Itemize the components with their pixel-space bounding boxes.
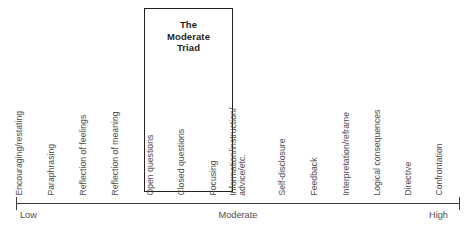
- technique-label-text-line2: advice/etc.: [239, 108, 248, 196]
- technique-label-interpretation-reframe: Interpretation/reframe: [342, 112, 352, 196]
- continuum-axis-tick-high: [459, 197, 460, 210]
- technique-label-reflection-of-feelings: Reflection of feelings: [79, 115, 89, 196]
- technique-label-confrontation: Confrontation: [435, 144, 445, 196]
- moderate-triad-box: The Moderate Triad: [144, 8, 233, 192]
- technique-label-encouraging-restating: Encouraging/restating: [15, 111, 25, 196]
- continuum-axis-tick-low: [16, 197, 17, 210]
- technique-label-logical-consequences: Logical consequences: [373, 110, 383, 196]
- technique-label-self-disclosure: Self-disclosure: [278, 139, 288, 196]
- technique-label-text: Closed questions: [176, 129, 186, 196]
- axis-label-high: High: [429, 210, 448, 220]
- continuum-axis-line: [16, 203, 460, 204]
- technique-label-open-questions: Open questions: [146, 135, 156, 196]
- technique-label-text: Feedback: [309, 158, 319, 196]
- technique-label-text: Reflection of meaning: [110, 112, 120, 196]
- technique-label-closed-questions: Closed questions: [177, 129, 187, 196]
- axis-label-moderate: Moderate: [0, 210, 476, 220]
- technique-label-text: Reflection of feelings: [78, 115, 88, 196]
- technique-label-directive: Directive: [404, 162, 414, 196]
- technique-label-feedback: Feedback: [310, 158, 320, 196]
- technique-label-text: Focusing: [208, 161, 218, 196]
- moderate-triad-title: The Moderate Triad: [145, 19, 232, 54]
- moderate-triad-title-line1: The: [180, 19, 197, 30]
- technique-label-focusing: Focusing: [209, 161, 219, 196]
- technique-label-text: Logical consequences: [372, 110, 382, 196]
- technique-label-reflection-of-meaning: Reflection of meaning: [111, 112, 121, 196]
- technique-label-text: Confrontation: [434, 144, 444, 196]
- technique-label-information-instruction-advice: Information/instruction/ advice/etc.: [229, 108, 248, 196]
- moderate-triad-title-line3: Triad: [177, 42, 200, 53]
- continuum-diagram: The Moderate Triad Encouraging/restating…: [0, 0, 476, 240]
- technique-label-text: Directive: [403, 162, 413, 196]
- moderate-triad-title-line2: Moderate: [167, 31, 210, 42]
- technique-label-text: Self-disclosure: [277, 139, 287, 196]
- technique-label-text: Interpretation/reframe: [341, 112, 351, 196]
- technique-label-text: Open questions: [145, 135, 155, 196]
- technique-label-text: Encouraging/restating: [14, 111, 24, 196]
- technique-label-text: Paraphrasing: [46, 144, 56, 196]
- technique-label-paraphrasing: Paraphrasing: [47, 144, 57, 196]
